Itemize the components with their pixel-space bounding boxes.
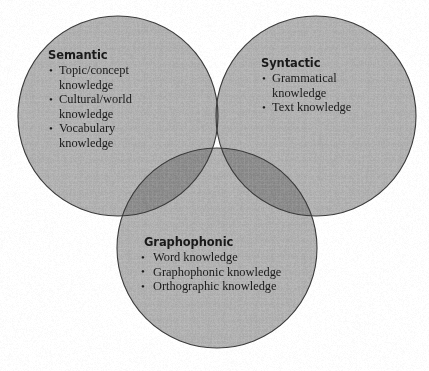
graphophonic-title: Graphophonic [144,236,330,249]
venn-group-graphophonic: Graphophonic Word knowledge Graphophonic… [140,236,330,294]
syntactic-item-list: Grammatical knowledge Text knowledge [261,71,381,115]
list-item: Word knowledge [140,250,330,265]
semantic-item-list: Topic/concept knowledge Cultural/world k… [48,63,160,151]
list-item: Orthographic knowledge [140,279,330,294]
venn-group-semantic: Semantic Topic/concept knowledge Cultura… [48,49,160,151]
list-item: Text knowledge [261,100,381,115]
syntactic-title: Syntactic [261,57,381,70]
graphophonic-item-list: Word knowledge Graphophonic knowledge Or… [140,250,330,294]
venn-group-syntactic: Syntactic Grammatical knowledge Text kno… [261,57,381,115]
list-item: Topic/concept knowledge [48,63,160,92]
list-item: Vocabulary knowledge [48,121,160,150]
venn-diagram-figure: Semantic Topic/concept knowledge Cultura… [0,0,429,371]
list-item: Grammatical knowledge [261,71,381,100]
list-item: Cultural/world knowledge [48,92,160,121]
semantic-title: Semantic [48,49,160,62]
list-item: Graphophonic knowledge [140,265,330,280]
